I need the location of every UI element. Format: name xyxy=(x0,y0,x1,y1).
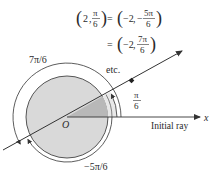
pi6-den: 6 xyxy=(134,101,139,111)
svg-text:7π: 7π xyxy=(138,34,148,44)
svg-text:,: , xyxy=(133,39,136,50)
svg-text:6: 6 xyxy=(93,19,98,29)
neg-five-pi-six-label: −5π/6 xyxy=(84,161,107,172)
svg-text:(: ( xyxy=(76,8,82,29)
svg-text:,: , xyxy=(133,13,136,24)
origin-label: O xyxy=(62,119,69,130)
svg-text:): ) xyxy=(150,34,156,55)
svg-text:−: − xyxy=(137,13,143,24)
initial-ray-label: Initial ray xyxy=(151,121,188,131)
svg-text:π: π xyxy=(93,8,98,18)
svg-text:,: , xyxy=(89,13,92,24)
svg-text:): ) xyxy=(156,8,162,29)
point-marker xyxy=(129,78,135,84)
etc-label: etc. xyxy=(106,64,120,75)
equation-line-2: = ( −2 , 7π 6 ) xyxy=(107,34,156,55)
svg-text:5π: 5π xyxy=(144,8,154,18)
svg-text:=: = xyxy=(107,39,113,50)
svg-text:2: 2 xyxy=(83,13,88,24)
svg-text:6: 6 xyxy=(140,45,145,55)
equation-line-1: ( 2 , π 6 ) = ( −2 , − 5π 6 ) xyxy=(76,8,162,29)
svg-text:=: = xyxy=(107,13,113,24)
polar-coordinates-diagram: O x Initial ray π 6 7π/6 −5π/6 ( 2 , π 6… xyxy=(0,0,216,176)
svg-text:6: 6 xyxy=(146,19,151,29)
x-axis-label: x xyxy=(203,112,209,123)
seven-pi-six-label: 7π/6 xyxy=(29,54,47,65)
pi6-num: π xyxy=(134,90,139,100)
